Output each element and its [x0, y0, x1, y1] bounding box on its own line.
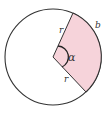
label-alpha: α — [68, 51, 76, 64]
label-r-top: r — [59, 25, 64, 35]
label-r-bottom: r — [64, 74, 69, 84]
circle-sector-diagram: r r α b — [0, 0, 110, 117]
label-b: b — [95, 20, 101, 30]
